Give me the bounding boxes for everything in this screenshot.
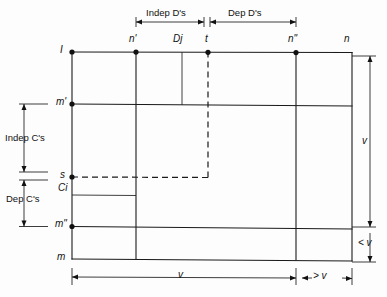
top-dimension-dep-d xyxy=(210,17,296,27)
label-col-n-double-prime: n" xyxy=(288,34,297,44)
label-indep-d: Indep D's xyxy=(146,8,186,18)
label-dim-bottom-wide: v xyxy=(178,270,183,280)
label-row-m: m xyxy=(57,252,65,262)
label-row-m-prime: m' xyxy=(56,97,66,107)
label-row-i: I xyxy=(60,45,63,55)
bottom-dimension-wide-v xyxy=(72,268,296,285)
top-dimension-indep-d xyxy=(136,17,204,27)
label-dep-d: Dep D's xyxy=(228,8,262,18)
node-markers xyxy=(69,49,298,229)
row-line-m-prime xyxy=(72,104,352,106)
diagram-canvas: Indep D's Dep D's n' Dj t n" n I m' s Ci… xyxy=(0,0,387,297)
label-row-ci: Ci xyxy=(58,183,67,193)
label-col-n: n xyxy=(344,34,350,44)
label-col-t: t xyxy=(205,34,208,44)
label-dep-c: Dep C's xyxy=(6,194,40,204)
main-grid-outline xyxy=(72,52,352,261)
label-col-n-prime: n' xyxy=(129,34,136,44)
dashed-boundary-path xyxy=(72,52,208,177)
label-row-m-double-prime: m" xyxy=(55,219,67,229)
row-line-m-double-prime xyxy=(72,227,352,230)
label-dim-right-tall: v xyxy=(362,136,367,146)
label-col-dj: Dj xyxy=(173,34,182,44)
bottom-dimension-narrow-v xyxy=(302,268,352,285)
label-dim-right-short: < v xyxy=(358,238,372,248)
label-dim-bottom-narrow: > v xyxy=(313,271,327,281)
label-indep-c: Indep C's xyxy=(5,133,45,143)
label-row-s: s xyxy=(60,170,65,180)
row-line-ci xyxy=(72,195,136,196)
